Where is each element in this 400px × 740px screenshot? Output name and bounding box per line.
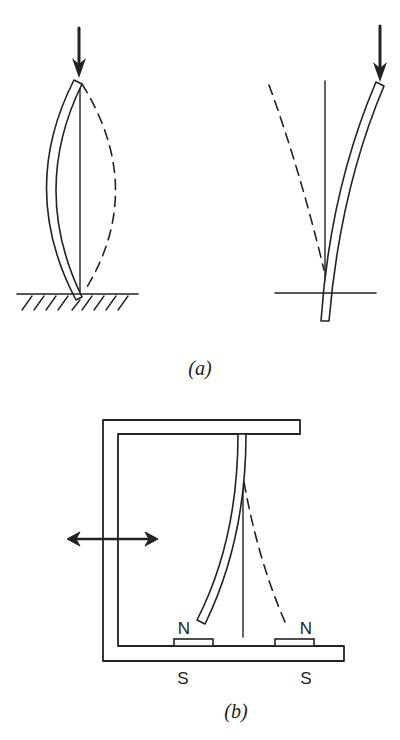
magnet-left-top-label: N [178, 619, 190, 638]
dashed-deflection [82, 84, 116, 292]
hanging-rod [197, 434, 246, 624]
magnet-right [275, 639, 314, 646]
down-arrow-icon [373, 26, 387, 82]
figure-canvas: (a) N N S S (b) [0, 0, 400, 740]
magnet-right-top-label: N [300, 619, 312, 638]
caption-b: (b) [224, 700, 248, 723]
magnet-left-bottom-label: S [177, 669, 188, 688]
deflected-column [321, 82, 384, 321]
down-arrow-icon [72, 28, 86, 78]
caption-a: (a) [188, 357, 212, 380]
panel-a-right-diagram [269, 26, 387, 321]
dashed-deflection [244, 482, 285, 622]
magnet-right-bottom-label: S [300, 669, 311, 688]
double-arrow-icon [67, 532, 158, 546]
panel-b-diagram: N N S S [67, 420, 344, 688]
buckled-column [46, 80, 82, 300]
dashed-deflection [269, 85, 324, 270]
panel-a-left-diagram [17, 28, 138, 310]
magnet-left [174, 639, 213, 646]
